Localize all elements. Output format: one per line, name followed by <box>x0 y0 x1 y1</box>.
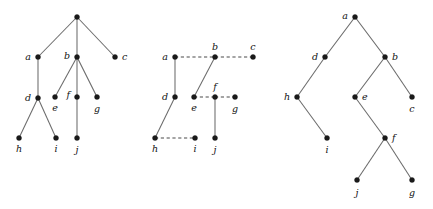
tree-node-label-f: f <box>391 132 397 143</box>
tree-node-label-c: c <box>250 41 256 52</box>
tree-node-label-h: h <box>152 143 158 154</box>
tree-left-nodes <box>17 15 118 141</box>
tree-edge-b-e <box>355 57 385 97</box>
tree-node-h[interactable] <box>153 136 158 141</box>
tree-node-d[interactable] <box>323 55 328 60</box>
tree-left-edges <box>19 17 115 138</box>
tree-node-e[interactable] <box>353 95 358 100</box>
tree-node-f[interactable] <box>213 95 218 100</box>
tree-node-label-a: a <box>25 51 31 62</box>
tree-node-c[interactable] <box>410 95 415 100</box>
tree-node-label-a: a <box>342 10 348 21</box>
tree-node-h[interactable] <box>17 136 22 141</box>
tree-node-label-d: d <box>312 51 318 62</box>
tree-node-b[interactable] <box>213 55 218 60</box>
tree-node-i[interactable] <box>193 136 198 141</box>
tree-node-j[interactable] <box>75 136 80 141</box>
tree-edge-root-a <box>38 17 77 57</box>
tree-node-g[interactable] <box>233 95 238 100</box>
tree-diagram-canvas: abcdefghijabcdefghijadbhecifjg <box>0 0 433 209</box>
tree-edge-f-j <box>357 138 385 180</box>
tree-node-a[interactable] <box>36 55 41 60</box>
tree-node-label-j: j <box>354 187 359 198</box>
tree-edge-b-c <box>385 57 412 97</box>
tree-right-labels: adbhecifjg <box>284 10 415 198</box>
tree-node-b[interactable] <box>383 55 388 60</box>
tree-node-label-g: g <box>94 103 100 114</box>
nodes-layer <box>17 15 415 183</box>
tree-edge-h-i <box>297 97 327 138</box>
tree-node-i[interactable] <box>54 136 59 141</box>
tree-node-label-a: a <box>162 51 168 62</box>
tree-edge-e-f <box>355 97 385 138</box>
tree-node-d[interactable] <box>36 96 41 101</box>
tree-node-a[interactable] <box>353 15 358 20</box>
tree-node-c[interactable] <box>251 55 256 60</box>
tree-node-label-e: e <box>52 102 58 113</box>
tree-edge-f-g <box>385 138 412 180</box>
tree-node-j[interactable] <box>355 178 360 183</box>
tree-node-i[interactable] <box>325 136 330 141</box>
tree-edge-b-e <box>194 57 215 97</box>
tree-edge-d-h <box>297 57 325 97</box>
tree-node-label-j: j <box>212 144 217 155</box>
tree-diagram-figure: abcdefghijabcdefghijadbhecifjg <box>0 0 433 209</box>
tree-middle-edges <box>155 57 253 138</box>
tree-node-label-b: b <box>212 41 218 52</box>
tree-node-label-d: d <box>25 92 31 103</box>
tree-node-e[interactable] <box>192 95 197 100</box>
tree-node-c[interactable] <box>113 55 118 60</box>
tree-node-root[interactable] <box>75 15 80 20</box>
tree-node-label-j: j <box>74 144 79 155</box>
tree-node-label-i: i <box>325 144 328 155</box>
tree-node-h[interactable] <box>295 95 300 100</box>
tree-edge-root-c <box>77 17 115 57</box>
tree-node-label-c: c <box>409 103 415 114</box>
tree-node-g[interactable] <box>95 95 100 100</box>
tree-node-f[interactable] <box>75 95 80 100</box>
tree-node-label-b: b <box>64 50 70 61</box>
tree-edge-d-h <box>19 98 38 138</box>
tree-node-label-c: c <box>122 51 128 62</box>
tree-node-j[interactable] <box>213 136 218 141</box>
tree-node-label-i: i <box>193 143 196 154</box>
tree-node-label-g: g <box>232 103 238 114</box>
tree-node-label-h: h <box>284 91 290 102</box>
tree-node-label-e: e <box>362 91 368 102</box>
tree-node-label-e: e <box>191 102 197 113</box>
tree-edge-d-h <box>155 97 175 138</box>
tree-right-nodes <box>295 15 415 183</box>
tree-node-d[interactable] <box>173 95 178 100</box>
tree-node-b[interactable] <box>75 55 80 60</box>
tree-node-f[interactable] <box>383 136 388 141</box>
tree-node-a[interactable] <box>173 55 178 60</box>
tree-edge-a-b <box>355 17 385 57</box>
tree-node-label-b: b <box>392 51 398 62</box>
tree-edge-b-g <box>77 57 97 97</box>
tree-edge-a-d <box>325 17 355 57</box>
tree-node-g[interactable] <box>410 178 415 183</box>
labels-layer: abcdefghijabcdefghijadbhecifjg <box>16 10 415 198</box>
tree-node-label-h: h <box>16 143 22 154</box>
tree-node-e[interactable] <box>53 95 58 100</box>
tree-node-label-f: f <box>65 89 71 100</box>
tree-node-label-i: i <box>54 143 57 154</box>
tree-node-label-g: g <box>409 187 415 198</box>
tree-node-label-d: d <box>162 91 168 102</box>
tree-node-label-f: f <box>212 81 218 92</box>
